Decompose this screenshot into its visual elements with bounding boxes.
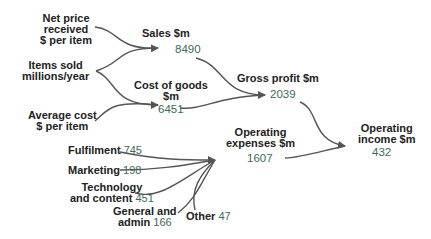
node-sales-label: Sales $m [142, 28, 190, 39]
node-opex-value: 1607 [247, 152, 273, 164]
node-opex-label: Operating expenses $m [226, 127, 295, 149]
node-gross-profit-value: 2039 [270, 88, 296, 100]
node-operating-income-value: 432 [372, 146, 391, 158]
node-items-sold: Items sold millions/year [22, 60, 89, 82]
node-cogs-value: 6451 [158, 103, 184, 115]
node-gross-profit-label: Gross profit $m [237, 73, 319, 84]
node-general-admin: General and admin 166 [113, 206, 177, 228]
node-other: Other 47 [186, 211, 231, 222]
node-net-price: Net price received $ per item [40, 13, 92, 46]
node-fulfilment: Fulfilment 745 [68, 145, 142, 156]
node-average-cost: Average cost $ per item [28, 110, 97, 132]
value-driver-tree: Net price received $ per item Items sold… [0, 0, 431, 239]
node-marketing: Marketing 198 [68, 165, 141, 176]
node-sales-value: 8490 [175, 43, 201, 55]
node-operating-income-label: Operating income $m [358, 123, 415, 145]
node-cogs-label: Cost of goods $m [134, 80, 208, 102]
node-technology: Technology and content 451 [70, 182, 154, 204]
